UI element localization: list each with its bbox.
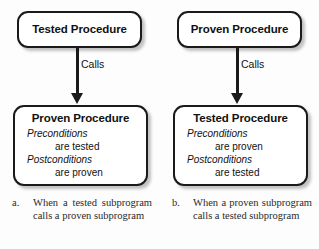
caption-marker-panel-a: a.: [12, 197, 30, 210]
caption-text-panel-a: When a tested subpro­gram calls a proven…: [33, 197, 152, 222]
bottom-node-panel-b: Tested Procedure Preconditions are prove…: [173, 105, 308, 186]
top-node-title-panel-b: Proven Procedure: [191, 23, 288, 36]
postcondition-kind-panel-b: Postconditions: [175, 153, 306, 166]
caption-panel-b: b. When a proven subpro­gram calls a tes…: [172, 197, 312, 222]
calls-arrow-label-panel-b: Calls: [241, 58, 264, 71]
calls-arrow-head-panel-b: [231, 93, 243, 104]
calls-arrow-line-panel-a: [76, 48, 79, 96]
precondition-kind-panel-b: Preconditions: [175, 127, 306, 140]
postcondition-value-panel-a: are proven: [15, 166, 146, 179]
panel-a: Tested Procedure Calls Proven Procedure …: [0, 0, 159, 249]
top-node-panel-b: Proven Procedure: [177, 11, 302, 48]
top-node-title-panel-a: Tested Procedure: [32, 23, 127, 36]
postcondition-value-panel-b: are tested: [175, 166, 306, 179]
panel-b: Proven Procedure Calls Tested Procedure …: [160, 0, 319, 249]
caption-marker-panel-b: b.: [172, 197, 190, 210]
precondition-value-panel-a: are tested: [15, 140, 146, 153]
top-node-panel-a: Tested Procedure: [17, 11, 142, 48]
caption-text-panel-b: When a proven subpro­gram calls a tested…: [193, 197, 312, 222]
calls-arrow-head-panel-a: [71, 93, 83, 104]
calls-arrow-label-panel-a: Calls: [81, 58, 104, 71]
precondition-kind-panel-a: Preconditions: [15, 127, 146, 140]
caption-panel-a: a. When a tested subpro­gram calls a pro…: [12, 197, 152, 222]
figure-proven-tested-procedures: Tested Procedure Calls Proven Procedure …: [0, 0, 319, 249]
bottom-node-title-panel-a: Proven Procedure: [15, 112, 146, 125]
calls-arrow-line-panel-b: [236, 48, 239, 96]
bottom-node-panel-a: Proven Procedure Preconditions are teste…: [13, 105, 148, 186]
bottom-node-title-panel-b: Tested Procedure: [175, 112, 306, 125]
precondition-value-panel-b: are proven: [175, 140, 306, 153]
postcondition-kind-panel-a: Postconditions: [15, 153, 146, 166]
